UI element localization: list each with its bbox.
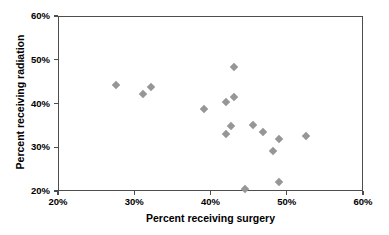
x-axis-tick-mark [57, 191, 58, 195]
data-point [248, 120, 256, 128]
x-axis-tick-mark [362, 191, 363, 195]
x-axis-tick-label: 60% [343, 197, 383, 207]
data-point [229, 63, 237, 71]
data-point [274, 135, 282, 143]
data-point [222, 98, 230, 106]
data-point [241, 184, 249, 192]
y-axis-tick-mark [54, 147, 58, 148]
data-point [268, 147, 276, 155]
y-axis-tick-mark [54, 103, 58, 104]
data-point [259, 128, 267, 136]
plot-area [58, 16, 363, 191]
x-axis-tick-mark [286, 191, 287, 195]
x-axis-tick-mark [210, 191, 211, 195]
y-axis-tick-mark [54, 59, 58, 60]
data-point [275, 178, 283, 186]
x-axis-tick-label: 30% [114, 197, 154, 207]
data-point [222, 130, 230, 138]
data-point [302, 132, 310, 140]
data-point [139, 89, 147, 97]
x-axis-title: Percent receiving surgery [58, 212, 363, 224]
x-axis-tick-label: 50% [267, 197, 307, 207]
x-axis-tick-mark [134, 191, 135, 195]
x-axis-tick-label: 20% [38, 197, 78, 207]
y-axis-title: Percent receiving radiation [14, 15, 26, 190]
data-point [200, 105, 208, 113]
data-point [147, 83, 155, 91]
scatter-chart: 20%30%40%50%60% 20%30%40%50%60% Percent … [0, 0, 389, 235]
data-point [230, 93, 238, 101]
y-axis-tick-mark [54, 15, 58, 16]
data-point [226, 122, 234, 130]
data-point [112, 81, 120, 89]
x-axis-tick-label: 40% [191, 197, 231, 207]
